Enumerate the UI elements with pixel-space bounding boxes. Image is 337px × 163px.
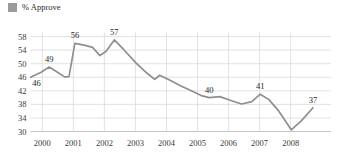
x-tick-label: 2006 [220, 138, 237, 148]
gridlines-group [31, 33, 332, 132]
y-tick-label: 38 [18, 99, 27, 109]
y-tick-label: 58 [18, 32, 27, 42]
y-axis-ticks: 3034384246505458 [18, 32, 27, 137]
x-axis-ticks: 200020012002200320042005200620072008 [34, 138, 299, 148]
x-tick-label: 2003 [127, 138, 144, 148]
x-tick-label: 2005 [189, 138, 206, 148]
x-tick-label: 2002 [96, 138, 113, 148]
data-point-labels: 46495657404137 [32, 27, 317, 105]
data-point-label: 40 [205, 85, 214, 95]
chart-screenshot: % Approve 3034384246505458 2000200120022… [0, 0, 337, 163]
x-tick-label: 2001 [65, 138, 82, 148]
data-point-label: 41 [256, 81, 265, 91]
plot-area: 3034384246505458 20002001200220032004200… [0, 0, 337, 163]
data-point-label: 49 [45, 54, 54, 64]
y-tick-label: 34 [18, 113, 27, 123]
data-point-label: 56 [71, 30, 80, 40]
data-point-label: 57 [110, 27, 119, 37]
y-tick-label: 42 [18, 86, 27, 96]
y-tick-label: 50 [18, 59, 27, 69]
x-tick-label: 2008 [282, 138, 299, 148]
series-line-approve [31, 40, 313, 130]
x-tick-label: 2000 [34, 138, 51, 148]
y-tick-label: 54 [18, 45, 27, 55]
data-point-label: 46 [32, 78, 41, 88]
line-chart-svg: 3034384246505458 20002001200220032004200… [0, 0, 337, 163]
y-tick-label: 30 [18, 127, 27, 137]
x-tick-label: 2007 [251, 138, 268, 148]
y-tick-label: 46 [18, 72, 27, 82]
data-point-label: 37 [309, 95, 318, 105]
x-tick-label: 2004 [158, 138, 176, 148]
